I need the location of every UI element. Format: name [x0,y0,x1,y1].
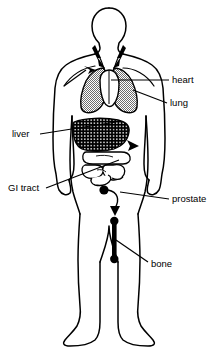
label-prostate: prostate [172,193,206,204]
anatomy-diagram: heart lung liver GI tract prostate bone [0,0,218,352]
body-figure-svg: heart lung liver GI tract prostate bone [0,0,218,352]
prostate-organ [99,185,108,194]
label-lung: lung [170,97,188,108]
label-heart: heart [172,74,194,85]
label-bone: bone [151,258,172,269]
label-gi-tract: GI tract [8,182,40,193]
label-liver: liver [12,128,29,139]
